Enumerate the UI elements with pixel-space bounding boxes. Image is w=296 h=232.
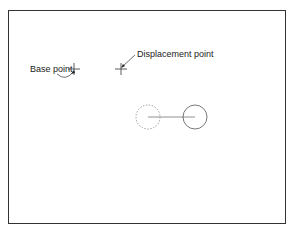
displacement-point-label: Displacement point	[137, 49, 214, 59]
diagram-canvas: Base point Displacement point	[0, 0, 296, 232]
base-point-label: Base point	[30, 64, 73, 74]
displacement-point-crosshair-icon	[115, 63, 127, 75]
